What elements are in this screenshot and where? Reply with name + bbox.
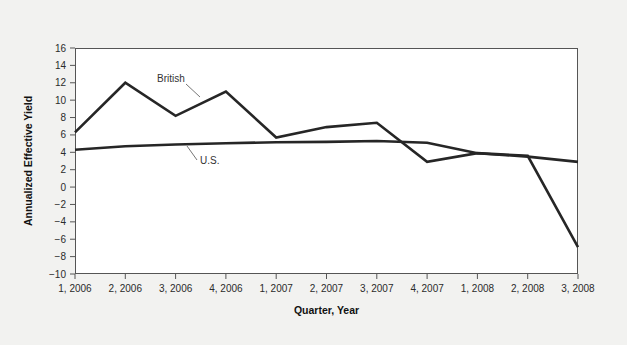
x-tick-label: 4, 2007	[410, 283, 444, 294]
y-tick-label: 6	[60, 129, 66, 140]
x-tick-label: 2, 2008	[511, 283, 545, 294]
x-axis-tick-labels: 1, 20062, 20063, 20064, 20061, 20072, 20…	[58, 283, 595, 294]
y-tick-label: −6	[55, 234, 67, 245]
series-label-u-s: U.S.	[200, 155, 219, 166]
x-tick-label: 4, 2006	[209, 283, 243, 294]
y-axis-tick-labels: −10−8−6−4−20246810121416	[49, 43, 66, 280]
x-tick-label: 3, 2008	[561, 283, 595, 294]
x-axis-tickmarks	[75, 274, 578, 279]
x-tick-label: 1, 2006	[58, 283, 92, 294]
y-tick-label: −4	[55, 216, 67, 227]
series-label-british: British	[157, 73, 185, 84]
y-tick-label: 4	[60, 147, 66, 158]
y-axis-tickmarks	[70, 48, 75, 274]
y-axis-title: Annualized Effective Yield	[22, 96, 34, 226]
x-tick-label: 1, 2008	[461, 283, 495, 294]
x-axis-title: Quarter, Year	[294, 304, 359, 316]
line-chart: −10−8−6−4−20246810121416 1, 20062, 20063…	[0, 0, 627, 345]
y-tick-label: −10	[49, 269, 66, 280]
x-tick-label: 3, 2007	[360, 283, 394, 294]
y-tick-label: −2	[55, 199, 67, 210]
y-tick-label: −8	[55, 251, 67, 262]
x-tick-label: 2, 2007	[310, 283, 344, 294]
y-tick-label: 14	[55, 60, 67, 71]
y-tick-label: 10	[55, 95, 67, 106]
y-tick-label: 8	[60, 112, 66, 123]
x-tick-label: 1, 2007	[260, 283, 294, 294]
y-tick-label: 0	[60, 182, 66, 193]
y-tick-label: 2	[60, 164, 66, 175]
chart-container: −10−8−6−4−20246810121416 1, 20062, 20063…	[0, 0, 627, 345]
y-tick-label: 16	[55, 43, 67, 54]
plot-background	[75, 48, 578, 274]
y-tick-label: 12	[55, 77, 67, 88]
x-tick-label: 3, 2006	[159, 283, 193, 294]
x-tick-label: 2, 2006	[109, 283, 143, 294]
